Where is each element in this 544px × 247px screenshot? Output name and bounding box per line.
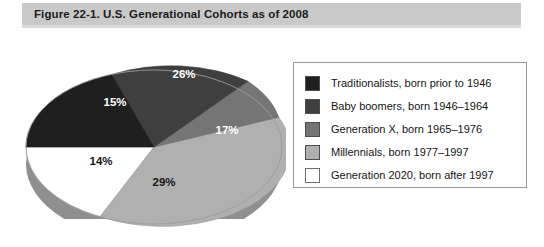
legend-item-generation-x: Generation X, born 1965–1976 xyxy=(305,118,520,140)
pie-chart-svg: 15% 26% 17% 29% 14% xyxy=(22,36,286,247)
legend-label-baby-boomers: Baby boomers, born 1946–1964 xyxy=(331,101,488,112)
legend-label-generation-x: Generation X, born 1965–1976 xyxy=(331,124,482,135)
page-title: Figure 22-1. U.S. Generational Cohorts a… xyxy=(34,8,309,20)
legend-swatch-generation-2020 xyxy=(305,168,320,183)
legend-swatch-baby-boomers xyxy=(305,99,320,114)
pie-chart: 15% 26% 17% 29% 14% xyxy=(22,36,286,247)
pie-label-generation-x: 17% xyxy=(215,124,238,136)
legend-item-millennials: Millennials, born 1977–1997 xyxy=(305,141,520,163)
legend-label-generation-2020: Generation 2020, born after 1997 xyxy=(331,170,494,181)
legend-item-generation-2020: Generation 2020, born after 1997 xyxy=(305,164,520,186)
pie-label-millennials: 29% xyxy=(152,176,175,188)
legend-label-traditionalists: Traditionalists, born prior to 1946 xyxy=(331,78,491,89)
figure-title-bar: Figure 22-1. U.S. Generational Cohorts a… xyxy=(22,3,521,25)
chart-area: 15% 26% 17% 29% 14% Traditionalists, bor… xyxy=(0,30,544,247)
legend-swatch-millennials xyxy=(305,145,320,160)
pie-label-traditionalists: 15% xyxy=(103,96,126,108)
legend-swatch-generation-x xyxy=(305,122,320,137)
chart-legend: Traditionalists, born prior to 1946 Baby… xyxy=(293,62,527,188)
legend-item-baby-boomers: Baby boomers, born 1946–1964 xyxy=(305,95,520,117)
legend-swatch-traditionalists xyxy=(305,76,320,91)
legend-label-millennials: Millennials, born 1977–1997 xyxy=(331,147,469,158)
legend-list: Traditionalists, born prior to 1946 Baby… xyxy=(305,72,520,187)
pie-label-generation-2020: 14% xyxy=(89,155,112,167)
pie-label-baby-boomers: 26% xyxy=(172,68,195,80)
legend-item-traditionalists: Traditionalists, born prior to 1946 xyxy=(305,72,520,94)
